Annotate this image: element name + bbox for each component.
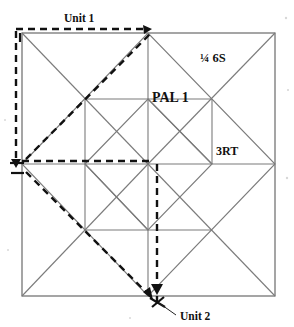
unit2-diagonal-dashed (26, 172, 153, 299)
top-left-quadrant-detail (85, 33, 148, 164)
unit2-dashed-overlay (26, 164, 165, 307)
unit2-leader-line (159, 303, 176, 315)
label-unit-2: Unit 2 (180, 310, 211, 322)
unit2-leader (159, 303, 176, 315)
label-unit-1: Unit 1 (64, 12, 95, 24)
quilt-block-figure: Unit 1 ¼ 6S PAL 1 3RT Unit 2 (0, 0, 294, 327)
label-quarter-6s: ¼ 6S (200, 51, 226, 65)
quilt-block-diagram: Unit 1 ¼ 6S PAL 1 3RT Unit 2 (0, 0, 294, 327)
unit1-diagonal-dashed (26, 34, 150, 159)
unit2-vertical-arrowhead (151, 284, 163, 295)
label-3rt: 3RT (216, 144, 238, 158)
label-pal-1: PAL 1 (152, 90, 189, 105)
